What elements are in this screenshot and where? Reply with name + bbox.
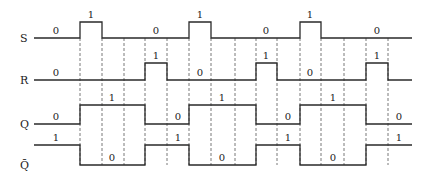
waveform: [34, 22, 412, 38]
logic-level-label: 0: [53, 111, 59, 122]
logic-level-label: 0: [263, 25, 269, 36]
logic-level-label: 1: [175, 132, 181, 143]
waveform: [34, 63, 412, 80]
logic-level-label: 0: [374, 25, 380, 36]
logic-level-label: 0: [219, 152, 225, 163]
signal-s: S0101010: [20, 9, 412, 45]
logic-level-label: 0: [330, 152, 336, 163]
signal-name-label: S: [20, 32, 28, 45]
logic-level-label: 1: [197, 9, 203, 20]
timing-diagram: S0101010R010101Q0101010Q̄1010101: [0, 0, 432, 178]
logic-level-label: 1: [88, 9, 94, 20]
logic-level-label: 0: [175, 111, 181, 122]
logic-level-label: 1: [53, 132, 59, 143]
logic-level-label: 1: [109, 92, 115, 103]
logic-level-label: 0: [396, 111, 402, 122]
logic-level-label: 0: [153, 25, 159, 36]
time-boundary-lines: [80, 38, 388, 165]
logic-level-label: 1: [396, 132, 402, 143]
logic-level-label: 1: [285, 132, 291, 143]
logic-level-label: 1: [307, 9, 313, 20]
signal-q-bar: Q̄1010101: [20, 132, 412, 172]
logic-level-label: 1: [330, 92, 336, 103]
logic-level-label: 1: [374, 50, 380, 61]
signal-traces: S0101010R010101Q0101010Q̄1010101: [20, 9, 412, 172]
logic-level-label: 0: [53, 67, 59, 78]
logic-level-label: 0: [307, 67, 313, 78]
logic-level-label: 0: [197, 67, 203, 78]
logic-level-label: 0: [53, 25, 59, 36]
signal-name-label: R: [20, 74, 29, 87]
signal-r: R010101: [20, 50, 412, 87]
logic-level-label: 1: [153, 50, 159, 61]
logic-level-label: 0: [285, 111, 291, 122]
logic-level-label: 1: [219, 92, 225, 103]
waveform: [34, 105, 412, 124]
signal-name-label: Q: [20, 118, 29, 131]
signal-q: Q0101010: [20, 92, 412, 131]
logic-level-label: 1: [263, 50, 269, 61]
logic-level-label: 0: [109, 152, 115, 163]
signal-name-label: Q̄: [20, 159, 29, 172]
